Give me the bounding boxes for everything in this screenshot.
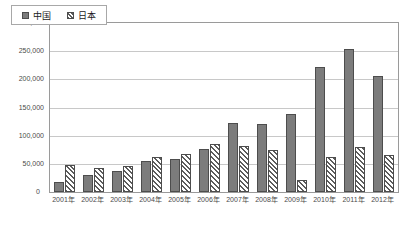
x-axis: 2001年2002年2003年2004年2005年2006年2007年2008年… [49, 194, 397, 214]
bar-japan [239, 146, 249, 192]
bar-japan [326, 157, 336, 192]
legend-swatch-icon [22, 12, 29, 19]
legend-item-japan[interactable]: 日本 [67, 9, 96, 22]
bar-group [108, 23, 137, 192]
y-axis-tick-label: 250,000 [19, 47, 44, 54]
bar-china [344, 49, 354, 192]
y-axis-tick-label-zero: 0 [36, 188, 40, 195]
x-axis-tick-label: 2011年 [342, 194, 364, 204]
bar-china [83, 175, 93, 192]
bar-japan [94, 168, 104, 192]
bar-china [54, 182, 64, 192]
bar-china [315, 67, 325, 192]
bar-group [369, 23, 398, 192]
bar-china [170, 159, 180, 192]
x-axis-tick-label: 2006年 [197, 194, 220, 204]
x-axis-tick-label: 2009年 [284, 194, 307, 204]
legend-swatch-icon [67, 12, 74, 19]
bar-chart: (台数) 50,000100,000150,000200,000250,0003… [0, 0, 411, 227]
x-axis-tick-label: 2005年 [168, 194, 191, 204]
bar-japan [268, 150, 278, 192]
bar-china [141, 161, 151, 192]
x-axis-tick-label: 2003年 [110, 194, 133, 204]
bars-layer [50, 23, 398, 192]
bar-china [257, 124, 267, 192]
bar-japan [181, 154, 191, 192]
x-axis-tick-label: 2002年 [81, 194, 104, 204]
x-axis-tick-label: 2001年 [52, 194, 75, 204]
bar-japan [297, 180, 307, 192]
bar-group [311, 23, 340, 192]
bar-group [195, 23, 224, 192]
bar-japan [123, 166, 133, 192]
bar-group [340, 23, 369, 192]
bar-group [79, 23, 108, 192]
legend-label: 日本 [78, 9, 96, 22]
legend-label: 中国 [33, 9, 51, 22]
x-axis-tick-label: 2007年 [226, 194, 249, 204]
x-axis-tick-label: 2012年 [371, 194, 394, 204]
bar-japan [355, 147, 365, 192]
bar-japan [384, 155, 394, 192]
plot-area [49, 22, 399, 193]
y-axis-tick-label: 50,000 [23, 159, 44, 166]
bar-japan [152, 157, 162, 192]
x-axis-tick-label: 2010年 [313, 194, 336, 204]
legend-item-china[interactable]: 中国 [22, 9, 51, 22]
bar-group [224, 23, 253, 192]
bar-japan [210, 144, 220, 192]
y-axis-tick-label: 100,000 [19, 131, 44, 138]
bar-group [282, 23, 311, 192]
bar-china [373, 76, 383, 192]
y-axis-tick-label: 200,000 [19, 75, 44, 82]
bar-china [112, 171, 122, 192]
y-axis-tick-label: 150,000 [19, 103, 44, 110]
bar-china [286, 114, 296, 192]
bar-japan [65, 165, 75, 192]
x-axis-tick-label: 2004年 [139, 194, 162, 204]
x-axis-tick-label: 2008年 [255, 194, 278, 204]
bar-group [137, 23, 166, 192]
bar-china [228, 123, 238, 192]
chart-legend: 中国日本 [11, 5, 107, 25]
bar-china [199, 149, 209, 192]
bar-group [253, 23, 282, 192]
bar-group [166, 23, 195, 192]
y-axis: 50,000100,000150,000200,000250,000300,00… [0, 0, 48, 227]
bar-group [50, 23, 79, 192]
